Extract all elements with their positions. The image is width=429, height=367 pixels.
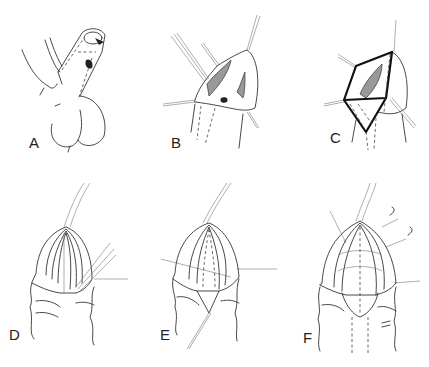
panel-b: B <box>143 0 286 183</box>
penis-drawing-a <box>0 0 143 183</box>
panel-e: E <box>143 183 286 367</box>
catheter-glans-drawing-d <box>0 183 143 367</box>
panel-c: C <box>286 0 429 183</box>
geometric-incision-drawing-c <box>286 0 429 183</box>
panel-f: F <box>286 183 429 367</box>
panel-a: A <box>0 0 143 183</box>
panel-label-d: D <box>9 327 20 342</box>
panel-label-b: B <box>171 135 181 150</box>
panel-label-f: F <box>303 330 312 345</box>
panel-label-a: A <box>29 135 39 150</box>
glans-incision-drawing-b <box>143 0 286 183</box>
panel-d: D <box>0 183 143 367</box>
panel-label-e: E <box>160 327 170 342</box>
panel-label-c: C <box>330 130 341 145</box>
